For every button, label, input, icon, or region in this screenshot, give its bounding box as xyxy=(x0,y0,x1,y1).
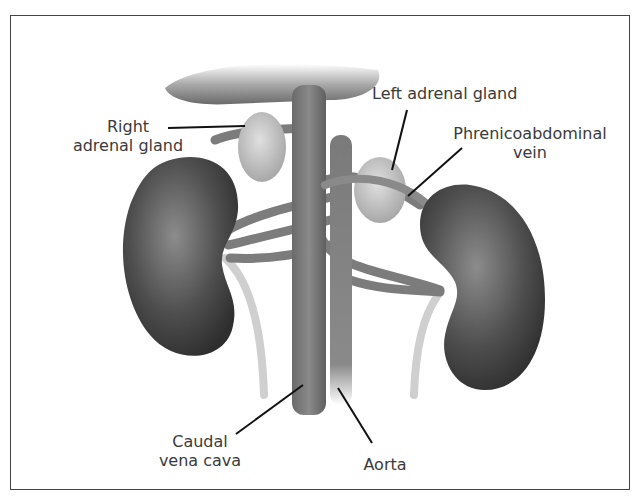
label-phrenicoabdominal-vein: Phrenicoabdominal vein xyxy=(445,124,615,162)
vena-cava-shape xyxy=(292,85,326,415)
liver-shape xyxy=(165,64,379,104)
label-left-adrenal-gland: Left adrenal gland xyxy=(372,84,542,103)
label-right-adrenal-gland: Right adrenal gland xyxy=(58,117,198,155)
right-adrenal-shape xyxy=(238,112,286,182)
label-aorta: Aorta xyxy=(355,455,415,474)
anatomy-illustration xyxy=(0,0,641,501)
right-kidney-shape xyxy=(123,157,238,356)
label-caudal-vena-cava: Caudal vena cava xyxy=(145,432,255,470)
